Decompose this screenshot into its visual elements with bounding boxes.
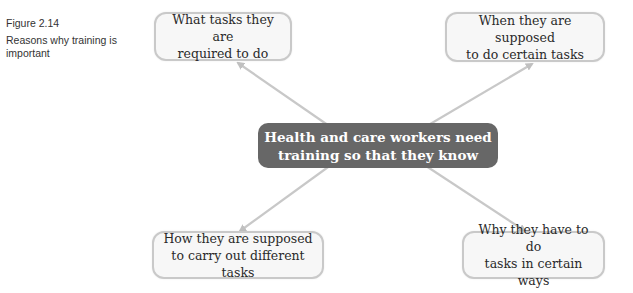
node-text-line: When they are supposed [479,13,572,45]
center-text-line: training so that they know [278,147,478,163]
node-bottom-right: Why they have to dotasks in certain ways [462,231,605,279]
node-text-line: to carry out different tasks [171,248,304,280]
arrow-to-top-right [420,64,532,130]
node-bottom-left: How they are supposedto carry out differ… [152,231,324,279]
arrow-to-bottom-left [240,162,335,231]
node-text-line: required to do [178,46,269,61]
arrow-to-top-left [238,63,335,130]
node-text-line: What tasks they are [172,12,274,44]
node-text-line: Why they have to do [479,222,589,254]
center-text-line: Health and care workers need [264,129,492,145]
node-text-line: tasks in certain ways [485,256,583,288]
node-text-line: to do certain tasks [466,47,584,62]
node-top-left: What tasks they arerequired to do [154,12,292,61]
node-text-line: How they are supposed [163,231,312,246]
node-top-right: When they are supposedto do certain task… [445,12,605,62]
central-concept: Health and care workers needtraining so … [258,123,498,168]
